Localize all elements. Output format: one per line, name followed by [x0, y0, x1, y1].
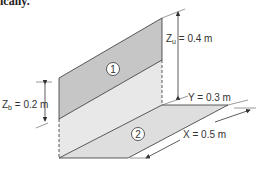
zb-label: Zb = 0.2 m	[2, 99, 48, 111]
x-dimension-arrow-upper	[215, 110, 250, 122]
y-label: Y = 0.3 m	[188, 92, 231, 103]
zu-label: Zu = 0.4 m	[166, 33, 212, 45]
panel-2-label: 2	[135, 129, 141, 140]
zu-extension-line	[162, 9, 185, 18]
panel-1-label: 1	[110, 64, 116, 75]
zb-extension-bottom	[36, 123, 48, 128]
x-label: X = 0.5 m	[183, 129, 226, 140]
y-extension-line	[162, 96, 188, 105]
diagram-canvas: 1 2 Zu = 0.4 m Zb = 0.2 m Y = 0.3 m X = …	[0, 0, 265, 172]
y-extension-line-2	[228, 100, 248, 105]
